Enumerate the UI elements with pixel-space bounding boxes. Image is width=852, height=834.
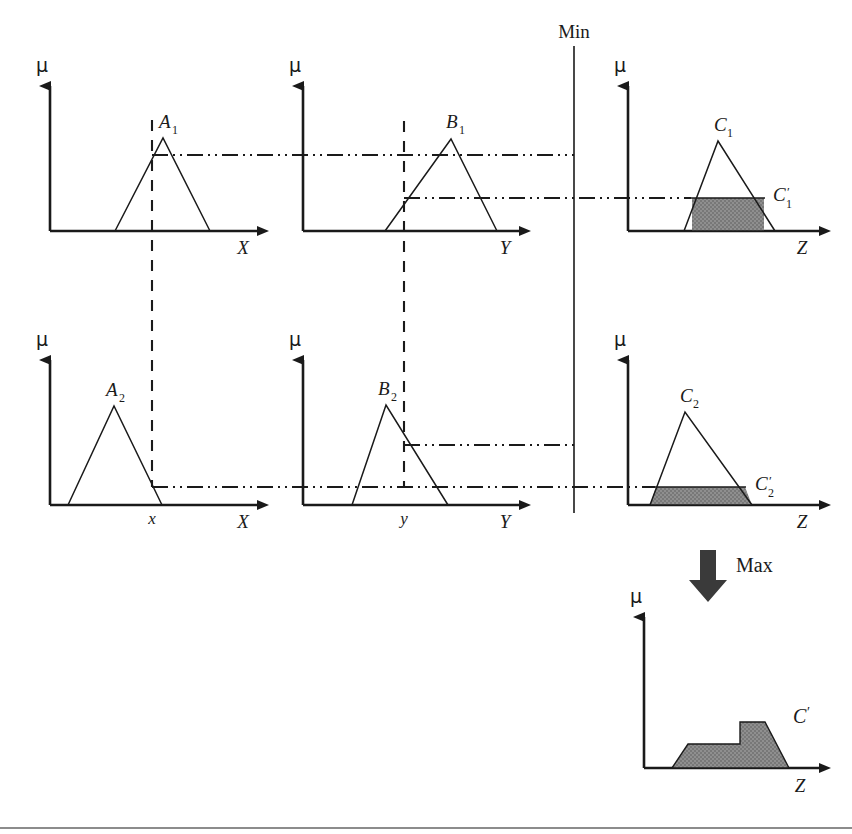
crisp-input-y-label: y bbox=[398, 509, 408, 528]
cprime-mu-label: μ bbox=[630, 585, 642, 607]
c1-clipped-fill bbox=[692, 198, 764, 231]
a1-set-letter: A bbox=[157, 111, 171, 132]
c2-z-axis-label: Z bbox=[797, 511, 808, 532]
a1-x-axis-label: X bbox=[236, 237, 250, 258]
c1p-set-subscript: 1 bbox=[786, 197, 792, 211]
fuzzy-inference-diagram: Min μ X A 1 x μ Y B 1 y μ Z bbox=[0, 0, 852, 834]
c1-set-subscript: 1 bbox=[727, 126, 733, 140]
a2-x-axis-label: X bbox=[236, 511, 250, 532]
c2p-set-letter: C bbox=[755, 473, 768, 494]
c1p-set-letter: C bbox=[773, 184, 786, 205]
c2-set-subscript: 2 bbox=[693, 397, 699, 411]
c1-mu-label: μ bbox=[614, 54, 626, 76]
b2-mu-label: μ bbox=[289, 328, 301, 350]
min-operator-label: Min bbox=[558, 21, 590, 42]
b1-set-subscript: 1 bbox=[459, 123, 465, 137]
b2-set-subscript: 2 bbox=[391, 390, 397, 404]
cprime-z-axis-label: Z bbox=[795, 775, 806, 796]
a1-set-subscript: 1 bbox=[172, 123, 178, 137]
a2-set-letter: A bbox=[104, 379, 118, 400]
a1-mu-label: μ bbox=[36, 54, 48, 76]
b1-mu-label: μ bbox=[289, 54, 301, 76]
c2-set-letter: C bbox=[680, 385, 693, 406]
cprime-prime-mark: ′ bbox=[807, 705, 810, 720]
c1-set-letter: C bbox=[714, 114, 727, 135]
b2-set-letter: B bbox=[378, 378, 390, 399]
c2-mu-label: μ bbox=[614, 328, 626, 350]
a2-set-subscript: 2 bbox=[119, 391, 125, 405]
fuzzy-inference-figure: Min μ X A 1 x μ Y B 1 y μ Z bbox=[0, 0, 852, 834]
b1-set-letter: B bbox=[446, 111, 458, 132]
cprime-set-letter: C bbox=[793, 705, 807, 727]
c2p-set-subscript: 2 bbox=[768, 486, 774, 500]
crisp-input-x-label: x bbox=[147, 509, 156, 528]
a2-mu-label: μ bbox=[36, 328, 48, 350]
max-operator-label: Max bbox=[736, 554, 773, 576]
c2-clipped-fill bbox=[650, 487, 752, 505]
c1-z-axis-label: Z bbox=[797, 237, 808, 258]
